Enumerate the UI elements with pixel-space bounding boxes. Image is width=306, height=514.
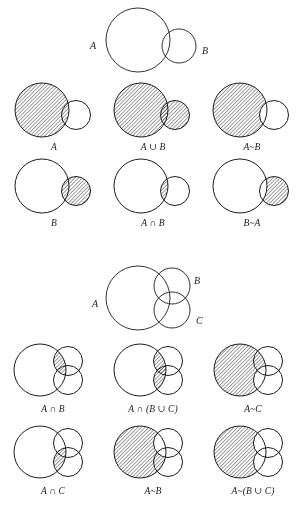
panel3-a-minus-c: A~C — [204, 338, 302, 414]
key-circle-a — [106, 8, 170, 72]
panel-b-minus-a-svg — [204, 158, 300, 216]
panel-a-intersect-b: A ∩ B — [105, 158, 201, 228]
panel-a-union-b: A ∪ B — [105, 82, 201, 152]
three-set-key-svg — [88, 258, 222, 338]
venn-diagram-figure: A B A — [0, 0, 306, 514]
panel-a-minus-b: A~B — [204, 82, 300, 152]
panel3-a-minus-b-union-c-svg — [204, 420, 302, 484]
key-circle-b — [162, 29, 196, 63]
circle-a — [15, 159, 69, 213]
panel-a: A — [6, 82, 102, 152]
panel3-a-intersect-c-caption: A ∩ C — [4, 486, 102, 497]
panel-a-minus-b-svg — [204, 82, 300, 140]
panel3-a-intersect-b-union-c-caption: A ∩ (B ∪ C) — [104, 404, 202, 415]
panel3-a-intersect-b-caption: A ∩ B — [4, 404, 102, 415]
panel3-a-intersect-c: A ∩ C — [4, 420, 102, 498]
circle-b — [54, 429, 83, 458]
panel-b: B — [6, 158, 102, 228]
key-circle-b — [154, 268, 190, 304]
three-set-key-diagram: A B C — [88, 258, 222, 338]
panel-a-svg — [6, 82, 102, 140]
shaded-region-a-minus-b — [204, 82, 300, 140]
panel-a-intersect-b-svg — [105, 158, 201, 216]
two-set-key-diagram: A B — [88, 4, 218, 76]
panel3-a-minus-b-caption: A~B — [104, 486, 202, 497]
panel-a-caption: A — [6, 142, 102, 153]
panel3-a-minus-b-svg — [104, 420, 202, 484]
panel3-a-intersect-c-svg — [4, 420, 102, 484]
shaded-region-b-minus-a — [204, 158, 300, 216]
panel-b-caption: B — [6, 218, 102, 229]
panel-b-minus-a: B~A — [204, 158, 300, 228]
panel3-a-minus-c-caption: A~C — [204, 404, 302, 415]
panel-b-svg — [6, 158, 102, 216]
key-circle-a — [106, 266, 170, 330]
key-label-b: B — [194, 276, 200, 286]
shaded-region-b — [6, 158, 102, 216]
panel3-a-intersect-b-union-c-svg — [104, 338, 202, 402]
shaded-region-a-intersect-b — [105, 158, 201, 216]
panel-a-intersect-b-caption: A ∩ B — [105, 218, 201, 229]
panel3-a-minus-b: A~B — [104, 420, 202, 498]
key-label-b: B — [202, 46, 208, 56]
panel-a-minus-b-caption: A~B — [204, 142, 300, 153]
key-label-c: C — [196, 316, 203, 326]
key-circle-c — [154, 292, 190, 328]
key-label-a: A — [90, 41, 96, 51]
panel3-a-minus-c-svg — [204, 338, 302, 402]
panel3-a-minus-b-union-c-caption: A~(B ∪ C) — [204, 486, 302, 497]
circle-c — [54, 366, 83, 395]
panel-a-union-b-caption: A ∪ B — [105, 142, 201, 153]
panel3-a-intersect-b-svg — [4, 338, 102, 402]
panel3-a-intersect-b: A ∩ B — [4, 338, 102, 414]
panel-b-minus-a-caption: B~A — [204, 218, 300, 229]
panel3-a-intersect-b-union-c: A ∩ (B ∪ C) — [104, 338, 202, 414]
panel-a-union-b-svg — [105, 82, 201, 140]
panel3-a-minus-b-union-c: A~(B ∪ C) — [204, 420, 302, 498]
circle-a — [114, 159, 168, 213]
two-set-key-svg — [88, 4, 218, 76]
key-label-a: A — [92, 299, 98, 309]
shaded-region-a — [6, 82, 102, 140]
